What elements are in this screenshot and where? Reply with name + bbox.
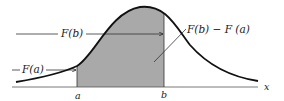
f-b-label: F(b) (60, 28, 84, 39)
b-tick-label: b (160, 90, 168, 100)
normal-cdf-diagram: F(b) F(a) F(b) − F (a) a b x (0, 0, 284, 101)
f-a-label: F(a) (21, 64, 45, 75)
a-tick-label: a (74, 91, 82, 101)
x-axis-label: x (263, 82, 270, 92)
difference-label: F(b) − F (a) (186, 24, 251, 35)
diagram-canvas (0, 0, 284, 101)
